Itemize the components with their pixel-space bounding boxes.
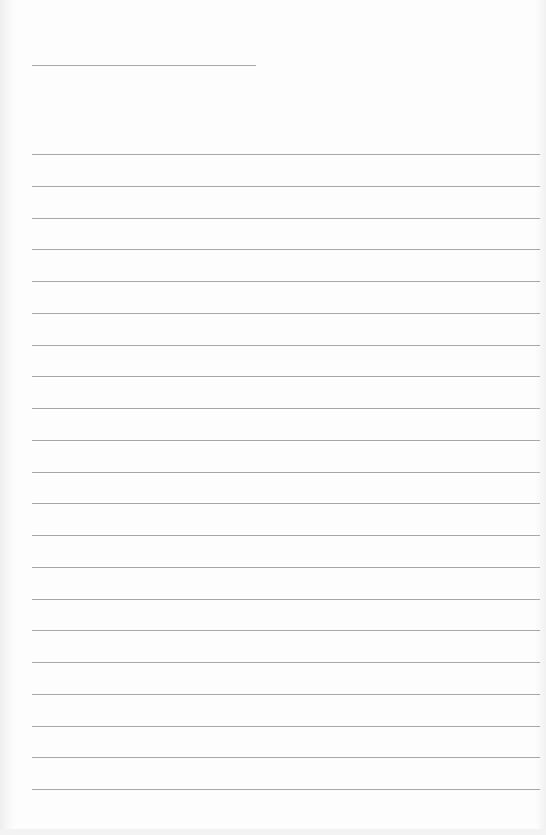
ruled-line	[32, 630, 540, 631]
ruled-line	[32, 186, 540, 187]
ruled-line	[32, 376, 540, 377]
ruled-line	[32, 249, 540, 250]
ruled-line	[32, 154, 540, 155]
header-line	[32, 65, 256, 66]
ruled-line	[32, 567, 540, 568]
ruled-line	[32, 218, 540, 219]
ruled-line	[32, 599, 540, 600]
ruled-line	[32, 757, 540, 758]
ruled-line	[32, 694, 540, 695]
paper-bottom-shadow	[0, 829, 546, 835]
ruled-line	[32, 535, 540, 536]
ruled-line	[32, 313, 540, 314]
ruled-line	[32, 789, 540, 790]
ruled-line	[32, 726, 540, 727]
ruled-line	[32, 472, 540, 473]
ruled-line	[32, 408, 540, 409]
paper-left-shadow	[0, 0, 14, 835]
ruled-line	[32, 440, 540, 441]
ruled-line	[32, 503, 540, 504]
ruled-line	[32, 281, 540, 282]
ruled-line	[32, 662, 540, 663]
ruled-line	[32, 345, 540, 346]
paper-right-shadow	[536, 0, 546, 835]
